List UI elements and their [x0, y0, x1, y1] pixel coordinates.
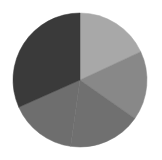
pie-slice-group	[13, 13, 147, 147]
pie-chart-container	[0, 0, 162, 160]
pie-chart-svg	[0, 0, 162, 160]
